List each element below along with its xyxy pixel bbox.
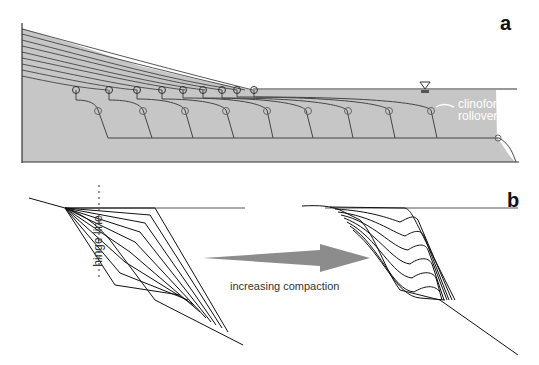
hinge-line-label: hinge line: [91, 206, 105, 276]
panel-b-left-diagram: [29, 185, 245, 345]
annotation-line-2: rollover: [458, 110, 507, 122]
arrow-label: increasing compaction: [230, 280, 339, 292]
sea-level-icon: [420, 82, 430, 93]
panel-a-diagram: [22, 23, 519, 163]
panel-a-label: a: [500, 12, 511, 35]
sediment-fill: [22, 23, 515, 162]
figure-canvas: [0, 0, 539, 365]
panel-b-label: b: [507, 189, 519, 212]
clinoform-rollover-annotation: clinoform rollover: [458, 98, 507, 122]
compaction-arrow: [203, 244, 370, 272]
